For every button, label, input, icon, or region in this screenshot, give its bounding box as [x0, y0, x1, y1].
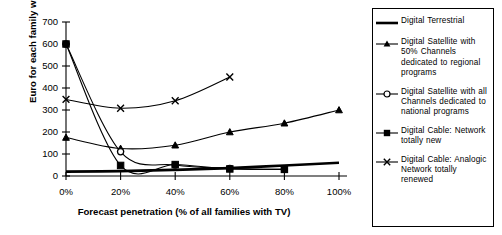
plot-canvas: 0100200300400500600700 0%20%40%60%80%100… — [0, 0, 358, 235]
legend-label: Digital Cable: Network totally new — [401, 126, 489, 147]
x-tick-label: 20% — [111, 186, 131, 197]
y-tick-label: 600 — [42, 38, 58, 49]
legend-item-0[interactable]: Digital Terrestrial — [376, 16, 489, 29]
y-axis-tick-labels: 0100200300400500600700 — [42, 16, 58, 181]
y-tick-label: 100 — [42, 148, 58, 159]
x-tick-label: 80% — [275, 186, 295, 197]
legend-label: Digital Terrestrial — [401, 16, 489, 26]
series-line — [66, 44, 284, 169]
x-tick-label: 0% — [59, 186, 73, 197]
data-point-marker-triangle — [63, 134, 70, 140]
y-axis-label-wrap: Euro for each family with TV — [26, 0, 40, 103]
data-point-marker-square — [172, 161, 178, 167]
x-tick-label: 40% — [166, 186, 186, 197]
legend-item-2[interactable]: Digital Satellite with all Channels dedi… — [376, 87, 489, 118]
legend-label: Digital Cable: Analogic Network totally … — [401, 155, 489, 186]
legend-marker-circle-icon — [376, 88, 398, 100]
legend-marker-none-icon — [376, 17, 398, 29]
y-tick-label: 500 — [42, 60, 58, 71]
data-point-marker-circle — [118, 149, 124, 155]
data-point-marker-x — [226, 74, 233, 81]
data-series-group — [63, 41, 343, 174]
y-tick-label: 400 — [42, 82, 58, 93]
y-axis-label: Euro for each family with TV — [26, 0, 40, 103]
y-tick-label: 200 — [42, 126, 58, 137]
legend-item-1[interactable]: Digital Satellite with 50% Channels dedi… — [376, 37, 489, 79]
legend-marker-triangle-icon — [376, 38, 398, 50]
chart-page: 0100200300400500600700 0%20%40%60%80%100… — [0, 0, 502, 235]
x-tick-label: 60% — [220, 186, 240, 197]
series-1 — [63, 107, 343, 152]
data-point-marker-x — [172, 97, 179, 104]
x-axis-tick-labels: 0%20%40%60%80%100% — [59, 186, 352, 197]
data-point-marker-square — [63, 41, 69, 47]
y-tick-label: 0 — [53, 170, 58, 181]
legend-label: Digital Satellite with all Channels dedi… — [401, 87, 489, 118]
legend-item-3[interactable]: Digital Cable: Network totally new — [376, 126, 489, 147]
x-axis-label: Forecast penetration (% of all families … — [24, 206, 344, 217]
legend-marker-x-icon — [376, 156, 398, 168]
legend-item-4[interactable]: Digital Cable: Analogic Network totally … — [376, 155, 489, 186]
legend-marker-square-icon — [376, 127, 398, 139]
x-tick-label: 100% — [327, 186, 352, 197]
series-line — [66, 44, 284, 174]
y-tick-label: 700 — [42, 16, 58, 27]
chart-figure: 0100200300400500600700 0%20%40%60%80%100… — [0, 0, 358, 235]
series-line — [66, 77, 230, 108]
data-point-marker-triangle — [336, 107, 343, 113]
y-tick-label: 300 — [42, 104, 58, 115]
legend-label: Digital Satellite with 50% Channels dedi… — [401, 37, 489, 79]
data-point-marker-square — [281, 166, 287, 172]
data-point-marker-square — [117, 162, 123, 168]
series-2 — [63, 41, 288, 173]
data-point-marker-square — [227, 166, 233, 172]
axes-group — [62, 22, 347, 180]
chart-legend: Digital TerrestrialDigital Satellite wit… — [372, 8, 494, 227]
series-3 — [63, 41, 288, 174]
